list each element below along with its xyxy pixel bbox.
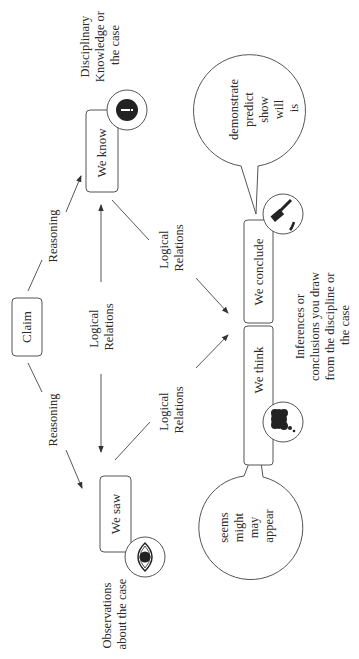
we-conclude-label: We conclude (251, 238, 266, 305)
edge-label-reasoning-bottom: Reasoning (46, 393, 60, 447)
bubble-word: might (232, 512, 246, 542)
we-saw-label: We saw (108, 493, 123, 534)
edge-label-logical-lower: Logical Relations (157, 386, 186, 433)
info-icon (107, 90, 147, 130)
edge-label-logical-upper: Logical Relations (157, 224, 186, 271)
bubble-word: predict (242, 92, 256, 127)
thought-cloud-icon (263, 402, 303, 442)
bubble-word: is (287, 104, 301, 112)
bubble-word: may (247, 516, 261, 538)
inference-description: Inferences or conclusions you draw from … (293, 269, 352, 381)
claim-node: Claim (12, 298, 42, 356)
we-know-node: We know (86, 90, 147, 192)
conclude-speech-bubble: demonstrate predict show will is (194, 55, 306, 214)
bubble-word: appear (262, 509, 276, 543)
bubble-word: show (257, 96, 271, 122)
bubble-word: demonstrate (227, 79, 241, 141)
gavel-icon (263, 194, 303, 234)
know-description: Disciplinary Knowledge or the case (78, 8, 122, 82)
we-think-label: We think (251, 346, 266, 393)
claim-reasoning-diagram: demonstrate predict show will is seems m… (0, 0, 359, 659)
bubble-word: will (272, 99, 286, 119)
claim-label: Claim (19, 311, 34, 343)
bubble-word: seems (217, 512, 231, 543)
we-know-label: We know (94, 128, 109, 178)
edge-label-reasoning-top: Reasoning (46, 209, 60, 263)
we-saw-node: We saw (100, 476, 165, 577)
saw-description: Observations about the case (100, 578, 129, 649)
edge-label-logical-center: Logical Relations (87, 303, 116, 350)
eye-icon (125, 537, 165, 577)
